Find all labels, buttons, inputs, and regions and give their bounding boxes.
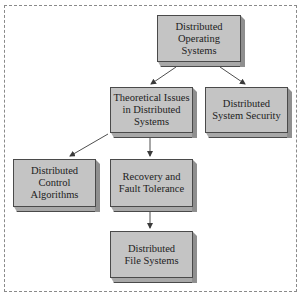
node-label: Distributed Control Algorithms <box>13 159 96 207</box>
label-line: Distributed <box>175 21 222 32</box>
label-line: File Systems <box>125 255 179 266</box>
edge-theory-to-control <box>70 134 108 156</box>
label-line: in Distributed <box>122 104 180 115</box>
label-line: Distributed <box>31 165 78 176</box>
label-line: Control <box>38 177 70 188</box>
label-line: Systems <box>181 45 216 56</box>
label-line: System Security <box>212 110 281 121</box>
node-label: Recovery and Fault Tolerance <box>110 159 193 207</box>
label-line: Recovery and <box>122 171 180 182</box>
node-label-text: Distributed Operating Systems <box>175 21 222 57</box>
node-label-text: Distributed File Systems <box>125 243 179 267</box>
node-distributed-system-security: Distributed System Security <box>205 87 292 138</box>
node-theoretical-issues: Theoretical Issues in Distributed System… <box>110 87 197 138</box>
label-line: Distributed <box>223 98 270 109</box>
node-label-text: Distributed System Security <box>212 98 281 122</box>
node-label: Theoretical Issues in Distributed System… <box>110 87 193 133</box>
label-line: Distributed <box>128 243 175 254</box>
label-line: Systems <box>134 116 169 127</box>
label-line: Fault Tolerance <box>119 183 184 194</box>
label-line: Theoretical Issues <box>113 92 189 103</box>
node-label: Distributed Operating Systems <box>157 15 241 62</box>
edge-dos-to-theory <box>151 67 176 84</box>
node-distributed-operating-systems: Distributed Operating Systems <box>157 15 245 67</box>
node-distributed-file-systems: Distributed File Systems <box>110 231 197 283</box>
node-label: Distributed System Security <box>205 87 288 133</box>
node-label-text: Distributed Control Algorithms <box>31 165 79 201</box>
node-label-text: Recovery and Fault Tolerance <box>119 171 184 195</box>
label-line: Operating <box>178 33 220 44</box>
node-recovery-fault-tolerance: Recovery and Fault Tolerance <box>110 159 197 212</box>
node-label-text: Theoretical Issues in Distributed System… <box>113 92 189 128</box>
edge-dos-to-security <box>220 67 245 84</box>
label-line: Algorithms <box>31 189 79 200</box>
node-label: Distributed File Systems <box>110 231 193 278</box>
node-distributed-control-algorithms: Distributed Control Algorithms <box>13 159 100 212</box>
